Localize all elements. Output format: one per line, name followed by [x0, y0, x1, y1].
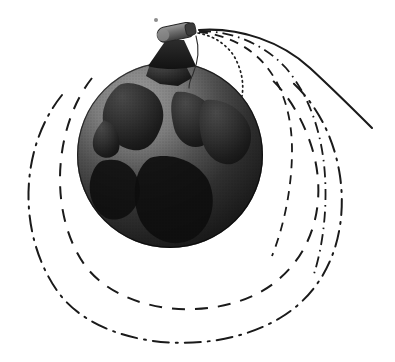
exhaust-plume: [148, 40, 196, 69]
orbital-trajectory-figure: Earth launch and orbital trajectories Ea…: [0, 0, 395, 362]
marker-dot: [154, 18, 158, 22]
launch-vehicle: [156, 21, 197, 44]
diagram-canvas: [0, 0, 395, 362]
earth-globe: [77, 60, 263, 252]
